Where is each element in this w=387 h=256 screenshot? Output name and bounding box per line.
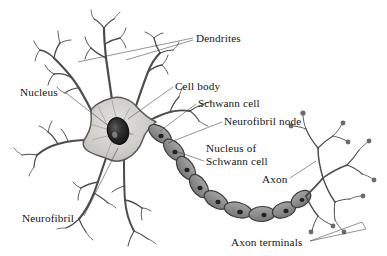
schwann-nucleus	[197, 186, 202, 190]
schwann-nucleus	[283, 209, 288, 213]
terminal-bulb	[341, 121, 346, 126]
terminal-bulb	[331, 224, 336, 229]
schwann-nucleus	[172, 150, 177, 154]
schwann-nucleus	[158, 134, 163, 138]
neuron-diagram-figure: Dendrites Cell body Nucleus Schwann cell…	[0, 0, 387, 256]
terminal-bulb	[361, 194, 366, 199]
schwann-nucleus	[237, 210, 243, 215]
schwann-nucleus	[261, 213, 266, 217]
label-nucleus-of-schwann-cell-line1: Nucleus of	[206, 142, 256, 154]
label-schwann-cell: Schwann cell	[198, 97, 260, 109]
label-neurofibril-node: Neurofibril node	[224, 115, 301, 127]
schwann-nucleus	[300, 198, 305, 202]
label-cell-body: Cell body	[175, 80, 220, 92]
label-axon-terminals: Axon terminals	[231, 236, 302, 248]
label-dendrites: Dendrites	[196, 32, 241, 44]
terminal-bulb	[367, 139, 372, 144]
terminal-bulb	[309, 230, 314, 235]
terminal-bulb	[372, 178, 377, 183]
label-nucleus-of-schwann-cell-line2: Schwann cell	[206, 155, 268, 167]
schwann-nucleus	[184, 168, 189, 172]
neuron-diagram-canvas: Dendrites Cell body Nucleus Schwann cell…	[0, 0, 387, 256]
label-nucleus: Nucleus	[20, 86, 58, 98]
label-neurofibril: Neurofibril	[22, 212, 74, 224]
schwann-nucleus	[215, 200, 220, 204]
label-axon: Axon	[262, 173, 288, 185]
terminal-bulb	[346, 140, 351, 145]
